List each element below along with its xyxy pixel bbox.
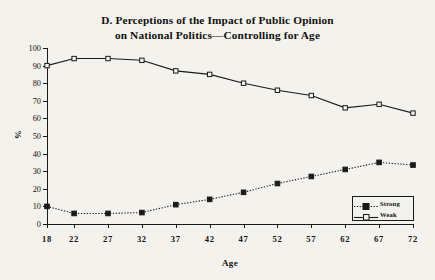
x-tick [379, 224, 380, 228]
y-tick-label: 40 [33, 149, 41, 158]
x-tick [345, 224, 346, 228]
x-tick-label: 37 [171, 234, 181, 244]
data-point-weak [106, 56, 110, 60]
x-tick [74, 224, 75, 228]
x-tick-label: 62 [340, 234, 350, 244]
y-tick-label: 70 [33, 96, 41, 105]
data-point-weak [411, 111, 415, 115]
x-tick [47, 224, 48, 228]
data-point-weak [241, 81, 245, 85]
series-line-weak [47, 59, 413, 114]
data-point-weak [72, 56, 76, 60]
x-axis-line [47, 224, 413, 225]
y-tick-label: 0 [37, 220, 41, 229]
chart-title-line-1: D. Perceptions of the Impact of Public O… [0, 13, 435, 28]
legend-swatch-weak [353, 209, 379, 220]
data-point-weak [174, 69, 178, 73]
x-tick-label: 22 [69, 234, 79, 244]
x-tick [176, 224, 177, 228]
x-tick-label: 42 [205, 234, 215, 244]
x-tick-label: 67 [374, 234, 384, 244]
x-tick [311, 224, 312, 228]
legend-swatch-strong [353, 198, 379, 209]
data-point-strong [241, 190, 246, 195]
legend: Strong Weak [352, 196, 414, 221]
data-point-weak [309, 93, 313, 97]
x-axis-title: Age [47, 258, 413, 268]
data-point-strong [140, 210, 145, 215]
data-point-strong [275, 181, 280, 186]
data-point-strong [343, 167, 348, 172]
y-tick-label: 50 [33, 132, 41, 141]
data-point-strong [173, 202, 178, 207]
data-point-strong [411, 163, 416, 168]
y-tick-label: 80 [33, 79, 41, 88]
x-tick-label: 47 [239, 234, 249, 244]
data-point-weak [275, 88, 279, 92]
data-point-strong [309, 174, 314, 179]
y-tick-label: 100 [29, 44, 41, 53]
x-tick-label: 18 [42, 234, 52, 244]
x-tick [108, 224, 109, 228]
y-tick-label: 90 [33, 61, 41, 70]
data-point-weak [207, 72, 211, 76]
x-tick [413, 224, 414, 228]
legend-entry-weak: Weak [353, 209, 413, 220]
x-tick-label: 72 [408, 234, 418, 244]
data-point-strong [72, 211, 77, 216]
data-point-strong [45, 204, 50, 209]
data-point-weak [343, 106, 347, 110]
y-tick-label: 60 [33, 114, 41, 123]
y-axis-title: % [13, 130, 23, 139]
data-point-strong [377, 160, 382, 165]
x-tick-label: 57 [306, 234, 316, 244]
data-point-weak [140, 58, 144, 62]
figure: D. Perceptions of the Impact of Public O… [0, 0, 435, 280]
data-point-weak [377, 102, 381, 106]
y-tick-label: 10 [33, 202, 41, 211]
y-tick-label: 20 [33, 184, 41, 193]
y-tick-label: 30 [33, 167, 41, 176]
legend-label-weak: Weak [380, 211, 397, 218]
x-tick [142, 224, 143, 228]
x-tick-label: 32 [137, 234, 147, 244]
data-point-weak [45, 63, 49, 67]
legend-label-strong: Strong [380, 200, 400, 207]
x-tick-label: 27 [103, 234, 113, 244]
x-tick-label: 52 [272, 234, 282, 244]
data-point-strong [207, 197, 212, 202]
x-tick [277, 224, 278, 228]
data-point-strong [106, 211, 111, 216]
chart-title-line-2: on National Politics—Controlling for Age [0, 28, 435, 43]
x-tick [210, 224, 211, 228]
legend-entry-strong: Strong [353, 198, 413, 209]
chart-title: D. Perceptions of the Impact of Public O… [0, 13, 435, 42]
x-tick [244, 224, 245, 228]
